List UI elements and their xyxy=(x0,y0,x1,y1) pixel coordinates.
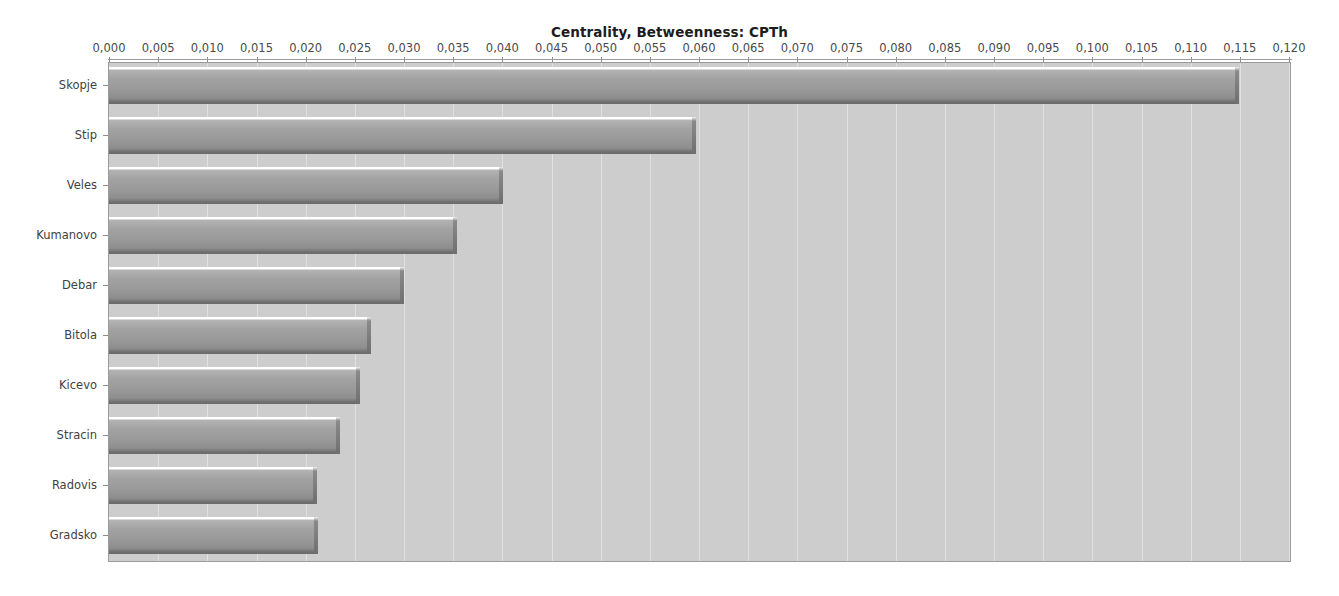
bar xyxy=(109,317,371,354)
x-axis-tick-label: 0,120 xyxy=(1273,41,1306,55)
x-axis-tick-label: 0,025 xyxy=(338,41,371,55)
category-axis-tick-mark xyxy=(103,135,108,136)
x-axis-tick-label: 0,015 xyxy=(240,41,273,55)
x-axis-tick-label: 0,095 xyxy=(1027,41,1060,55)
x-axis-tick-label: 0,115 xyxy=(1223,41,1256,55)
x-axis-tick-label: 0,090 xyxy=(978,41,1011,55)
category-axis-tick-mark xyxy=(103,185,108,186)
x-axis-tick-label: 0,060 xyxy=(683,41,716,55)
category-axis-tick-mark xyxy=(103,435,108,436)
betweenness-centrality-bar-chart: Centrality, Betweenness: CPTh 0,0000,005… xyxy=(0,0,1339,596)
x-axis-tick-label: 0,105 xyxy=(1125,41,1158,55)
category-axis-tick-mark xyxy=(103,335,108,336)
category-axis-tick-mark xyxy=(103,485,108,486)
x-axis-tick-label: 0,085 xyxy=(928,41,961,55)
bar xyxy=(109,267,404,304)
x-axis-tick-label: 0,020 xyxy=(289,41,322,55)
bar xyxy=(109,467,317,504)
category-axis-label: Bitola xyxy=(64,328,97,342)
category-axis-label: Gradsko xyxy=(50,528,97,542)
category-axis-label: Stip xyxy=(75,128,97,142)
category-axis-label: Debar xyxy=(62,278,97,292)
x-axis-tick-label: 0,065 xyxy=(732,41,765,55)
bar xyxy=(109,417,340,454)
chart-title: Centrality, Betweenness: CPTh xyxy=(0,24,1339,40)
bar xyxy=(109,517,318,554)
x-axis-tick-label: 0,080 xyxy=(879,41,912,55)
x-axis-tick-label: 0,000 xyxy=(93,41,126,55)
category-axis-labels: SkopjeStipVelesKumanovoDebarBitolaKicevo… xyxy=(0,62,108,562)
category-axis-tick-mark xyxy=(103,285,108,286)
plot-area xyxy=(108,62,1291,562)
bar xyxy=(109,117,696,154)
x-axis-tick-label: 0,035 xyxy=(437,41,470,55)
x-axis-tick-label: 0,055 xyxy=(633,41,666,55)
category-axis-tick-mark xyxy=(103,535,108,536)
x-axis-tick-label: 0,075 xyxy=(830,41,863,55)
x-axis-tick-label: 0,110 xyxy=(1174,41,1207,55)
x-axis-tick-label: 0,100 xyxy=(1076,41,1109,55)
bar xyxy=(109,217,457,254)
x-axis-tick-label: 0,070 xyxy=(781,41,814,55)
category-axis-label: Veles xyxy=(67,178,97,192)
x-axis-tick-label: 0,045 xyxy=(535,41,568,55)
category-axis-label: Stracin xyxy=(57,428,97,442)
category-axis-label: Kicevo xyxy=(59,378,97,392)
category-axis-label: Radovis xyxy=(52,478,97,492)
bars-layer xyxy=(109,63,1290,561)
x-axis-tick-label: 0,005 xyxy=(142,41,175,55)
x-axis-tick-label: 0,040 xyxy=(486,41,519,55)
category-axis-tick-mark xyxy=(103,235,108,236)
x-axis-tick-label: 0,030 xyxy=(388,41,421,55)
category-axis-label: Skopje xyxy=(59,78,97,92)
bar xyxy=(109,367,360,404)
x-axis-tick-label: 0,050 xyxy=(584,41,617,55)
x-axis-line xyxy=(108,59,1292,60)
category-axis-tick-mark xyxy=(103,85,108,86)
category-axis-label: Kumanovo xyxy=(36,228,97,242)
bar xyxy=(109,167,503,204)
x-axis-tick-label: 0,010 xyxy=(191,41,224,55)
bar xyxy=(109,67,1239,104)
category-axis-tick-mark xyxy=(103,385,108,386)
